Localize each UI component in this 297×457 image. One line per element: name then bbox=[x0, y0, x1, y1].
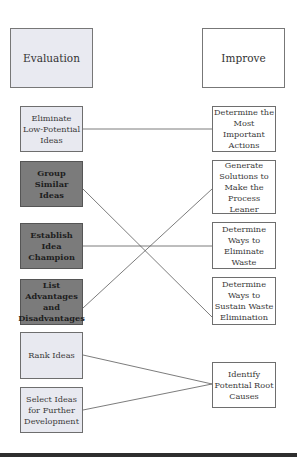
evaluation-header-label: Evaluation bbox=[23, 53, 80, 64]
right-item-sustain-waste-elimination: Determine Ways to Sustain Waste Eliminat… bbox=[212, 277, 276, 325]
right-item-identify-root-causes: Identify Potential Root Causes bbox=[212, 362, 276, 408]
left-item-establish-champion: Establish Idea Champion bbox=[20, 223, 83, 269]
left-item-select-ideas: Select Ideas for Further Development bbox=[20, 387, 83, 433]
left-item-rank-ideas: Rank Ideas bbox=[20, 332, 83, 379]
right-item-label: Determine Ways to Eliminate Waste bbox=[213, 224, 275, 268]
right-item-generate-solutions: Generate Solutions to Make the Process L… bbox=[212, 160, 276, 214]
left-item-label: Group Similar Ideas bbox=[21, 168, 82, 201]
right-item-eliminate-waste: Determine Ways to Eliminate Waste bbox=[212, 222, 276, 269]
connector-list-to-generate bbox=[83, 189, 212, 308]
improve-header: Improve bbox=[202, 28, 285, 88]
right-item-most-important-actions: Determine the Most Important Actions bbox=[212, 106, 276, 152]
left-item-label: List Advantages and Disadvantages bbox=[18, 280, 85, 324]
connector-group-to-sustain bbox=[83, 189, 212, 317]
left-item-eliminate-low-potential: Eliminate Low-Potential Ideas bbox=[20, 106, 83, 152]
right-item-label: Generate Solutions to Make the Process L… bbox=[213, 160, 275, 215]
left-item-list-advantages: List Advantages and Disadvantages bbox=[20, 279, 83, 325]
evaluation-header: Evaluation bbox=[10, 28, 93, 88]
improve-header-label: Improve bbox=[221, 53, 265, 64]
connector-rank-to-identify bbox=[83, 355, 212, 384]
left-item-group-similar: Group Similar Ideas bbox=[20, 161, 83, 207]
connector-select-to-identify bbox=[83, 384, 212, 410]
bottom-divider-bar bbox=[0, 453, 297, 457]
left-item-label: Rank Ideas bbox=[28, 350, 74, 361]
left-item-label: Select Ideas for Further Development bbox=[21, 394, 82, 427]
left-item-label: Eliminate Low-Potential Ideas bbox=[21, 113, 82, 146]
left-item-label: Establish Idea Champion bbox=[21, 230, 82, 263]
right-item-label: Determine the Most Important Actions bbox=[213, 107, 275, 151]
right-item-label: Identify Potential Root Causes bbox=[213, 369, 275, 402]
right-item-label: Determine Ways to Sustain Waste Eliminat… bbox=[213, 279, 275, 323]
